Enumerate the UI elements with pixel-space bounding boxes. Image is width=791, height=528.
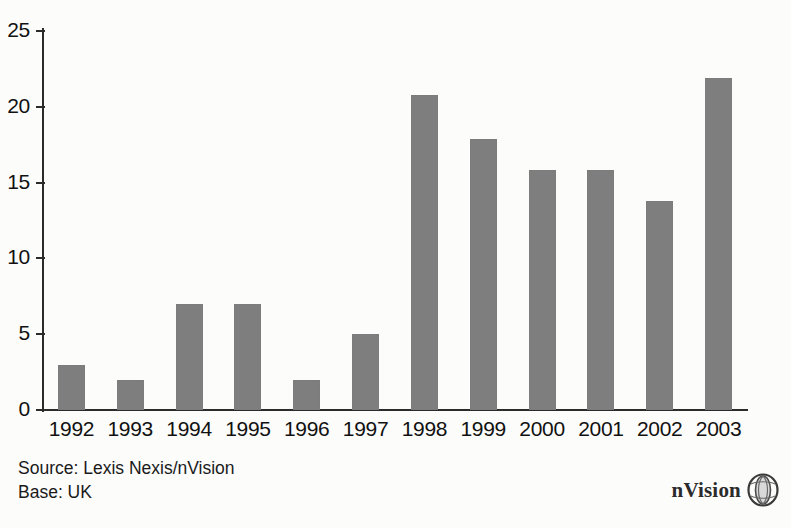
bar [352, 334, 379, 410]
globe-icon [743, 470, 783, 510]
nvision-logo: nVision [672, 470, 784, 510]
x-tick-label: 1993 [101, 414, 160, 444]
source-note: Source: Lexis Nexis/nVision [18, 456, 235, 480]
x-tick-label: 1994 [160, 414, 219, 444]
x-tick-label: 2002 [630, 414, 689, 444]
bar [587, 170, 614, 410]
bar [293, 380, 320, 410]
bar [470, 139, 497, 410]
footnotes: Source: Lexis Nexis/nVision Base: UK [18, 456, 235, 504]
bar [529, 170, 556, 410]
bar [58, 365, 85, 410]
bar [234, 304, 261, 410]
bar [411, 95, 438, 410]
x-tick-label: 1995 [219, 414, 278, 444]
bar [646, 201, 673, 410]
x-tick-label: 1997 [336, 414, 395, 444]
logo-wordmark: nVision [672, 478, 742, 503]
x-tick-label: 1999 [454, 414, 513, 444]
x-tick-label: 2003 [689, 414, 748, 444]
base-note: Base: UK [18, 480, 235, 504]
y-tick-label: 5 [19, 321, 30, 345]
bar-series [42, 31, 748, 410]
bar [176, 304, 203, 410]
x-axis-labels: 1992199319941995199619971998199920002001… [42, 414, 748, 446]
y-tick-label: 20 [7, 94, 30, 118]
x-tick-label: 1992 [42, 414, 101, 444]
x-tick-label: 1996 [277, 414, 336, 444]
y-tick-label: 15 [7, 170, 30, 194]
x-tick-label: 1998 [395, 414, 454, 444]
y-tick-label: 10 [7, 245, 30, 269]
y-tick-label: 25 [7, 18, 30, 42]
x-tick-label: 2001 [572, 414, 631, 444]
y-tick-label: 0 [19, 397, 30, 421]
bar [705, 78, 732, 410]
x-tick-label: 2000 [513, 414, 572, 444]
chart-figure: 0510152025 19921993199419951996199719981… [0, 0, 791, 528]
bar [117, 380, 144, 410]
